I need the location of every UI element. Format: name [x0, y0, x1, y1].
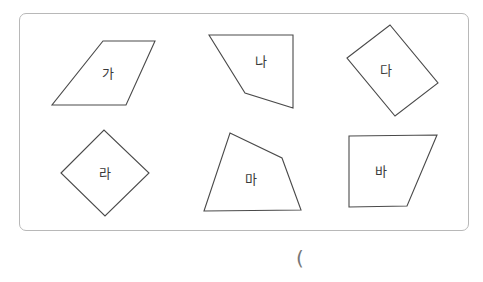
shape-label: 바 — [375, 164, 387, 179]
shape-da: 다 — [347, 25, 438, 116]
shape-label: 마 — [245, 172, 257, 187]
open-paren: ( — [296, 246, 304, 270]
shape-label: 다 — [380, 63, 392, 78]
rectangle-shape — [347, 25, 438, 116]
quadrilateral-shape — [209, 35, 293, 108]
shape-na: 나 — [209, 35, 293, 108]
answer-blank[interactable]: ( — [296, 246, 304, 270]
shapes-figure: 가 나 다 라 마 바 — [0, 0, 483, 282]
shape-ba: 바 — [349, 135, 437, 207]
shape-ra: 라 — [61, 130, 149, 216]
shape-label: 나 — [255, 54, 267, 69]
shape-ma: 마 — [204, 133, 301, 211]
shape-ga: 가 — [52, 41, 155, 105]
shape-label: 가 — [102, 66, 114, 81]
trapezoid-shape — [349, 135, 437, 207]
shape-label: 라 — [99, 166, 111, 181]
